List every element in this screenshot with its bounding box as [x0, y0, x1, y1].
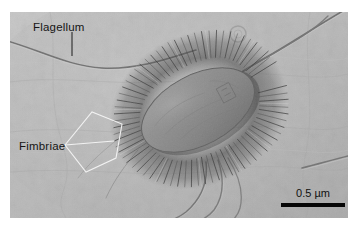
figure-root: Flagellum Fimbriae 0.5 µm	[0, 0, 354, 231]
label-flagellum: Flagellum	[33, 22, 85, 34]
scale-bar-line	[281, 203, 345, 207]
scale-bar-label: 0.5 µm	[280, 188, 346, 199]
label-fimbriae: Fimbriae	[19, 141, 65, 153]
scale-bar: 0.5 µm	[280, 188, 346, 210]
